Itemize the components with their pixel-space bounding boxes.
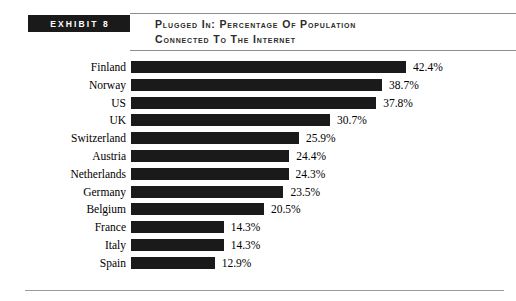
bar-track (131, 79, 382, 92)
bar-category-label: Belgium (0, 203, 126, 216)
bar-fill (131, 186, 283, 198)
bar-fill (131, 168, 289, 180)
exhibit-figure: EXHIBIT 8 Plugged in: Percentage of Popu… (0, 0, 516, 301)
bar-track (131, 239, 224, 252)
bar-fill (131, 150, 289, 162)
bar-row: Italy14.3% (0, 239, 516, 257)
bar-fill (131, 221, 224, 233)
bar-track (131, 186, 283, 199)
bar-row: Austria24.4% (0, 150, 516, 168)
bar-row: Belgium20.5% (0, 203, 516, 221)
bar-value-label: 24.3% (296, 168, 326, 181)
bar-row: Spain12.9% (0, 257, 516, 275)
chart-title: Plugged in: Percentage of Population Con… (155, 17, 495, 47)
bar-value-label: 37.8% (383, 97, 413, 110)
bar-track (131, 97, 376, 110)
bar-fill (131, 97, 376, 109)
bar-row: Netherlands24.3% (0, 168, 516, 186)
bar-value-label: 24.4% (296, 150, 326, 163)
bar-value-label: 23.5% (290, 186, 320, 199)
bar-value-label: 42.4% (413, 61, 443, 74)
bar-track (131, 132, 299, 145)
bar-fill (131, 79, 382, 91)
bar-track (131, 203, 264, 216)
bar-category-label: UK (0, 114, 126, 127)
bar-track (131, 221, 224, 234)
bar-category-label: Switzerland (0, 132, 126, 145)
exhibit-badge: EXHIBIT 8 (28, 15, 130, 32)
bar-category-label: France (0, 221, 126, 234)
chart-title-line-2: Connected to the Internet (155, 32, 495, 47)
bar-fill (131, 114, 330, 126)
bar-value-label: 30.7% (337, 114, 367, 127)
bar-fill (131, 61, 406, 73)
bar-category-label: Germany (0, 186, 126, 199)
bar-row: Germany23.5% (0, 186, 516, 204)
bar-fill (131, 239, 224, 251)
bar-row: France14.3% (0, 221, 516, 239)
bar-category-label: Finland (0, 61, 126, 74)
bar-category-label: Netherlands (0, 168, 126, 181)
bar-row: Norway38.7% (0, 79, 516, 97)
header-rule-top (130, 13, 516, 14)
bar-track (131, 150, 289, 163)
bar-row: Finland42.4% (0, 61, 516, 79)
bar-track (131, 168, 289, 181)
bar-category-label: Norway (0, 79, 126, 92)
chart-title-line-1: Plugged in: Percentage of Population (155, 17, 495, 32)
bar-row: US37.8% (0, 97, 516, 115)
bar-track (131, 61, 406, 74)
bar-value-label: 12.9% (222, 257, 252, 270)
bar-row: Switzerland25.9% (0, 132, 516, 150)
bar-track (131, 257, 215, 270)
bar-row: UK30.7% (0, 114, 516, 132)
bar-category-label: Italy (0, 239, 126, 252)
bar-value-label: 14.3% (231, 239, 261, 252)
bar-value-label: 25.9% (306, 132, 336, 145)
bar-value-label: 14.3% (231, 221, 261, 234)
bar-value-label: 20.5% (271, 203, 301, 216)
bar-category-label: Austria (0, 150, 126, 163)
footer-rule (25, 290, 504, 291)
bar-track (131, 114, 330, 127)
bar-chart-plot: Finland42.4%Norway38.7%US37.8%UK30.7%Swi… (0, 61, 516, 286)
bar-category-label: Spain (0, 257, 126, 270)
bar-category-label: US (0, 97, 126, 110)
header-rule-bottom (130, 50, 516, 51)
bar-fill (131, 132, 299, 144)
bar-fill (131, 203, 264, 215)
bar-fill (131, 257, 215, 269)
bar-value-label: 38.7% (389, 79, 419, 92)
